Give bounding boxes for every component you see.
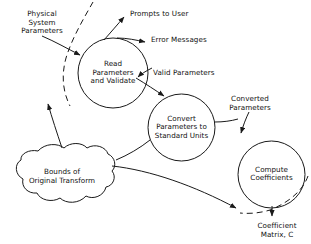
flow-bounds-to-read-arrow xyxy=(48,104,62,148)
data-store-label-bounds-of-original-transform: Bounds of Original Transform xyxy=(29,168,95,185)
process-label-convert-parameters-to-standard-units: Convert Parameters to Standard Units xyxy=(155,115,208,141)
flow-bounds-to-coefficient-arrow xyxy=(112,166,236,208)
flow-error-messages-arrow xyxy=(117,38,145,42)
flow-valid-parameters-to-convert-arrow xyxy=(136,78,164,96)
flow-label-coefficient-matrix: Coefficient Matrix, C xyxy=(257,222,296,239)
flow-label-valid-parameters: Valid Parameters xyxy=(153,69,215,78)
process-label-read-parameters-and-validate: Read Parameters and Validate xyxy=(91,60,136,86)
flow-physical-system-parameters-arrow xyxy=(42,36,80,55)
flow-valid-parameters-to-read-arrow xyxy=(138,68,152,77)
flow-converted-parameters-arrow xyxy=(241,112,249,133)
process-label-compute-coefficients: Compute Coefficients xyxy=(250,166,292,183)
flow-label-physical-system-parameters: Physical System Parameters xyxy=(21,10,63,36)
diagram-canvas: Read Parameters and Validate Convert Par… xyxy=(0,0,311,244)
flow-label-error-messages: Error Messages xyxy=(151,36,207,45)
flow-prompts-to-user-arrow xyxy=(104,17,124,40)
flow-convert-to-bounds-link xyxy=(116,140,150,160)
flow-converted-parameters-stub xyxy=(215,119,238,122)
flow-label-converted-parameters: Converted Parameters xyxy=(229,95,271,112)
flow-label-prompts-to-user: Prompts to User xyxy=(130,10,188,19)
